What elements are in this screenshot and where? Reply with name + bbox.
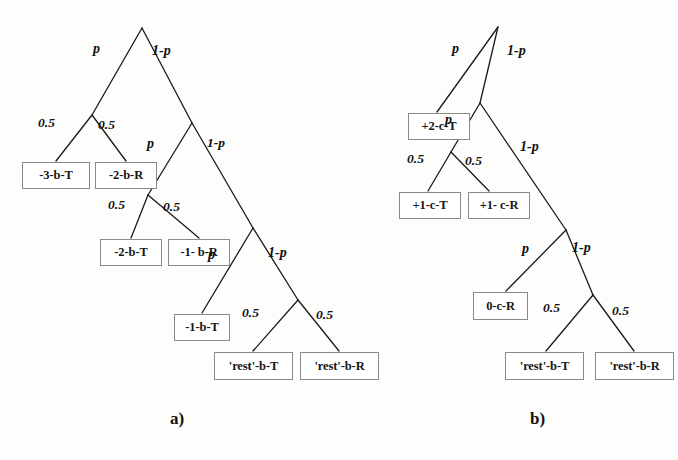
tree-leaf-node: -1- b-R [168,239,230,266]
tree-leaf-node: +1- c-R [468,192,530,219]
tree-leaf-node: +2-c-T [408,113,470,140]
tree-edge [253,300,298,351]
tree-edge [428,152,451,191]
tree-leaf-node: 'rest'-b-R [595,352,674,380]
tree-leaf-node: 'rest'-b-R [300,352,379,380]
edge-probability-label: p [208,248,215,262]
edge-probability-label: p [147,137,154,151]
tree-edge-layer [0,0,678,460]
edge-probability-label: p [522,242,529,256]
edge-probability-label: 0.5 [407,152,424,166]
panel-caption-a: a) [170,410,184,427]
edge-probability-label: 0.5 [38,116,55,130]
edge-probability-label: 0.5 [465,154,482,168]
tree-edge [480,27,498,103]
edge-probability-label: 1-p [152,44,171,58]
tree-edge [253,228,298,300]
edge-probability-label: 0.5 [242,306,259,320]
tree-edge [56,115,92,161]
tree-leaf-node: -2-b-R [95,162,157,189]
edge-probability-label: p [452,42,459,56]
edge-probability-label: 0.5 [316,308,333,322]
edge-probability-label: p [93,42,100,56]
tree-edge [506,230,566,291]
edge-probability-label: 0.5 [543,301,560,315]
tree-leaf-node: -1-b-T [174,314,230,341]
edge-probability-label: 0.5 [108,198,125,212]
edge-probability-label: 0.5 [98,118,115,132]
panel-caption-b: b) [530,410,545,427]
edge-probability-label: 0.5 [612,304,629,318]
edge-probability-label: 1-p [268,246,287,260]
edge-probability-label: 1-p [520,140,539,154]
tree-leaf-node: 'rest'-b-T [505,352,584,380]
tree-leaf-node: -3-b-T [22,162,90,189]
edge-probability-label: 0.5 [163,200,180,214]
decision-tree-figure: -3-b-T-2-b-R-2-b-T-1- b-R-1-b-T'rest'-b-… [0,0,678,460]
edge-probability-label: 1-p [572,241,591,255]
tree-leaf-node: -2-b-T [100,239,162,266]
edge-probability-label: 1-p [207,136,225,150]
tree-leaf-node: 'rest'-b-T [214,352,293,380]
tree-edge [437,27,498,112]
edge-probability-label: 1-p [507,44,526,58]
edge-probability-label: p [445,113,452,127]
tree-leaf-node: 0-c-R [473,292,528,320]
tree-edge [131,195,148,238]
tree-leaf-node: +1-c-T [399,192,461,219]
